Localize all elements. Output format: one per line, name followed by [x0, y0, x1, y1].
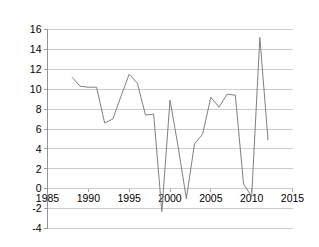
y-tick-label-8: 8	[36, 103, 42, 115]
x-tick-label-2015: 2015	[281, 192, 305, 204]
y-tick-label-10: 10	[30, 83, 42, 95]
y-tick-label--4: -4	[32, 222, 41, 234]
x-tick-label-2005: 2005	[199, 192, 223, 204]
data-series-group	[72, 37, 268, 211]
x-tick-label-1995: 1995	[117, 192, 141, 204]
x-tick-label-1985: 1985	[36, 192, 60, 204]
x-tick-label-2000: 2000	[158, 192, 182, 204]
data-series-1	[72, 37, 268, 211]
y-tick-label-4: 4	[36, 143, 42, 155]
y-tick-label-2: 2	[36, 163, 42, 175]
x-tick-label-1990: 1990	[77, 192, 101, 204]
y-tick-label-16: 16	[30, 23, 42, 35]
y-tick-label-14: 14	[30, 43, 42, 55]
y-tick-label-12: 12	[30, 63, 42, 75]
chart-canvas: -4-20246810121416 1985199019952000200520…	[0, 0, 319, 247]
line-chart: -4-20246810121416 1985199019952000200520…	[0, 0, 319, 247]
y-tick-label-6: 6	[36, 123, 42, 135]
x-axis-tick-labels: 1985199019952000200520102015	[36, 192, 305, 204]
